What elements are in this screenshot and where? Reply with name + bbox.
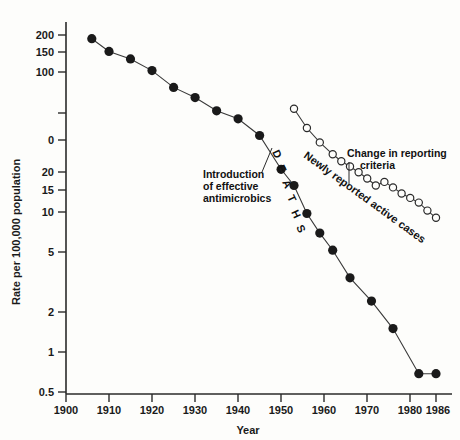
y-axis-title: Rate per 100,000 population [10,159,22,305]
y-tick-label-100: 100 [36,66,54,78]
y-tick-label-15: 15 [42,184,54,196]
data-point [126,54,135,63]
x-tick-label-1910: 1910 [97,404,121,416]
x-tick-label-1900: 1900 [54,404,78,416]
x-tick-label-1940: 1940 [226,404,250,416]
x-tick-label-1986: 1986 [426,404,450,416]
y-tick-label-200: 200 [36,29,54,41]
data-point [328,246,337,255]
data-point [315,229,324,238]
y-tick-label-20: 20 [42,166,54,178]
data-point [338,158,345,165]
data-point [346,163,353,170]
data-point [424,207,431,214]
data-point [212,106,221,115]
anno-change-line-2: criteria [360,159,395,171]
x-tick-label-1930: 1930 [183,404,207,416]
data-point [364,175,371,182]
data-point [389,184,396,191]
data-point [191,93,200,102]
data-point [431,369,440,378]
data-point [329,151,336,158]
chart-svg: 200 150 100 0 20 15 10 5 2 1 0.5 Rate pe… [0,0,460,440]
anno-intro-line-3: antimicrobics [203,192,271,204]
data-point [147,66,156,75]
x-tick-label-1980: 1980 [398,404,422,416]
y-tick-label-2: 2 [48,306,54,318]
y-tick-label-1: 1 [48,346,54,358]
data-point [169,83,178,92]
data-point [290,105,297,112]
anno-intro-line-2: of effective [203,180,259,192]
x-tick-label-1970: 1970 [355,404,379,416]
data-point [398,190,405,197]
y-tick-label-150: 150 [36,46,54,58]
data-point [255,131,264,140]
data-point [388,324,397,333]
x-axis-title: Year [236,424,260,436]
y-tick-label-50: 0 [48,134,54,146]
data-point [372,182,379,189]
data-point [432,214,439,221]
x-tick-label-1950: 1950 [269,404,293,416]
data-point [104,47,113,56]
data-point [381,178,388,185]
data-point [415,199,422,206]
y-tick-label-0-5: 0.5 [39,386,54,398]
data-point [87,34,96,43]
data-point [407,194,414,201]
data-point [345,273,354,282]
x-tick-label-1920: 1920 [140,404,164,416]
y-tick-label-5: 5 [48,246,54,258]
anno-change-line-1: Change in reporting [347,147,447,159]
data-point [367,297,376,306]
data-point [414,369,423,378]
data-point [303,124,310,131]
y-tick-label-10: 10 [42,206,54,218]
data-point [316,139,323,146]
anno-intro-line-1: Introduction [203,168,264,180]
x-tick-label-1960: 1960 [312,404,336,416]
chart-figure: 200 150 100 0 20 15 10 5 2 1 0.5 Rate pe… [0,0,460,440]
data-point [234,114,243,123]
